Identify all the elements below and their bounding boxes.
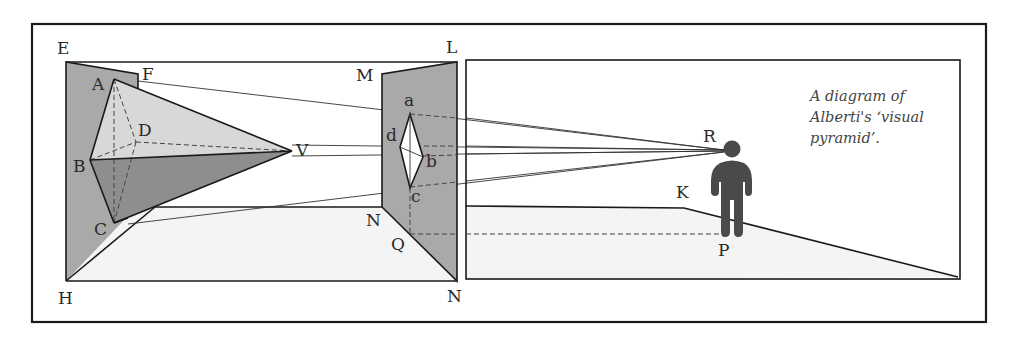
label-a: A: [91, 74, 105, 94]
caption-line-1: A diagram of: [808, 88, 908, 104]
ray-a-right: [466, 118, 724, 150]
caption-line-3: pyramid’.: [810, 130, 880, 146]
ray-c-right: [466, 152, 724, 181]
observer-head: [724, 141, 741, 158]
label-c: C: [94, 219, 107, 239]
caption-line-2: Alberti's ‘visual: [808, 109, 924, 125]
label-a-small: a: [404, 90, 414, 110]
alberti-diagram: E F A D B C H V M L a d b c N Q N R K P …: [0, 0, 1020, 338]
label-c-small: c: [411, 186, 421, 206]
label-n-lower: N: [447, 286, 462, 306]
label-v: V: [295, 140, 309, 160]
label-b-small: b: [426, 151, 437, 171]
label-q: Q: [391, 234, 405, 254]
floor-right: [466, 206, 958, 279]
label-h: H: [58, 288, 73, 308]
label-r: R: [703, 126, 717, 146]
label-d: D: [138, 120, 152, 140]
label-d-small: d: [386, 125, 397, 145]
ray-b-right: [466, 151, 724, 154]
label-e: E: [57, 38, 69, 58]
label-l: L: [446, 37, 457, 57]
label-m: M: [356, 65, 373, 85]
ray-d-right: [466, 146, 724, 150]
label-p: P: [718, 240, 729, 260]
label-n-upper: N: [366, 210, 381, 230]
label-k: K: [676, 182, 689, 202]
label-f: F: [142, 64, 154, 84]
label-b: B: [73, 156, 86, 176]
